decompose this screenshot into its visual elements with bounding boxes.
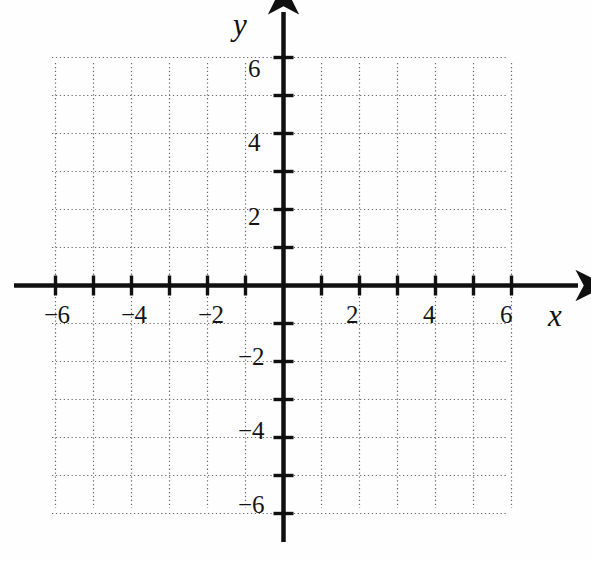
y-tick-label: 4 <box>248 130 261 155</box>
coordinate-plane-figure: y x −6−4−2246 642−2−4−6 <box>0 0 591 561</box>
x-tick-label: −2 <box>198 302 224 327</box>
x-axis-label: x <box>548 300 562 331</box>
x-tick-label: 2 <box>346 302 359 327</box>
y-tick-label: 2 <box>248 204 261 229</box>
x-tick-label: −6 <box>44 302 70 327</box>
y-tick-label: −4 <box>238 418 265 443</box>
y-axis-label: y <box>233 9 247 40</box>
graph-svg <box>0 0 591 561</box>
x-tick-label: 6 <box>500 302 513 327</box>
axes-group <box>14 12 578 542</box>
y-tick-label: −6 <box>238 492 265 517</box>
x-tick-label: 4 <box>423 302 436 327</box>
x-tick-label: −4 <box>121 302 147 327</box>
y-tick-label: 6 <box>248 56 261 81</box>
y-tick-label: −2 <box>238 344 265 369</box>
